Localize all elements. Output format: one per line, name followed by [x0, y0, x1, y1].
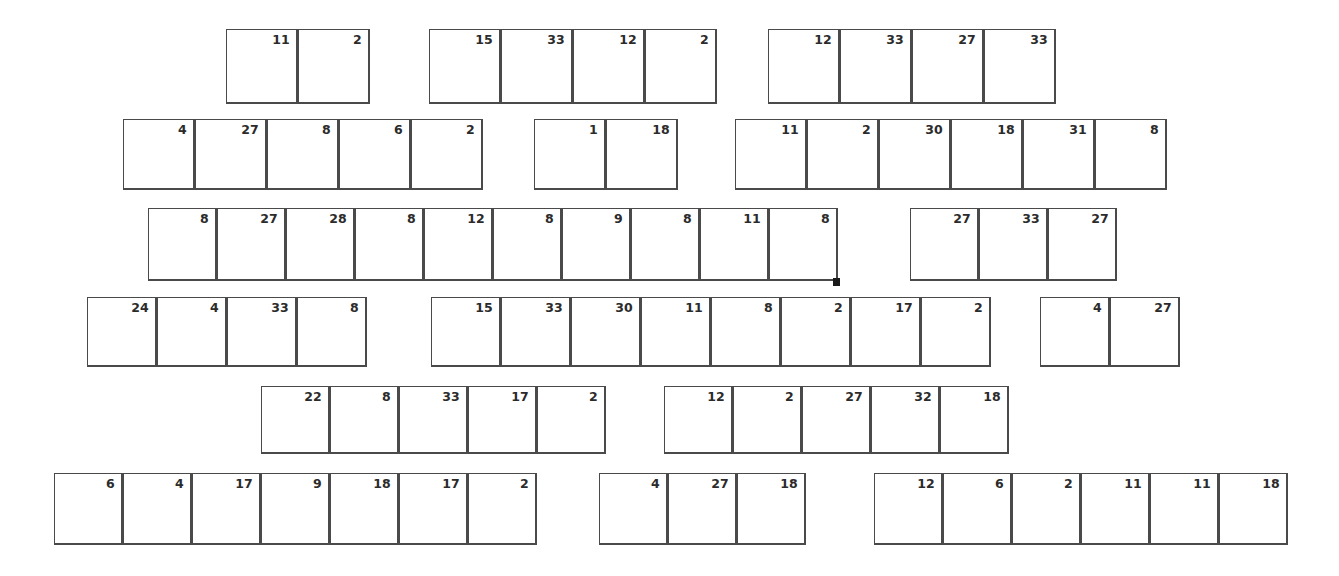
cell-value: 18 [1262, 477, 1280, 490]
grid-cell[interactable]: 11 [226, 29, 298, 104]
cell-value: 8 [545, 212, 554, 225]
grid-cell[interactable]: 8 [711, 297, 781, 367]
grid-cell[interactable]: 6 [54, 473, 123, 545]
cell-value: 27 [260, 212, 278, 225]
cell-group: 1123018318 [735, 119, 1167, 190]
grid-cell[interactable]: 27 [910, 208, 979, 281]
grid-cell[interactable]: 4 [1040, 297, 1110, 367]
grid-cell[interactable]: 12 [664, 386, 733, 454]
grid-cell[interactable]: 33 [227, 297, 297, 367]
grid-cell[interactable]: 31 [1023, 119, 1095, 190]
cell-value: 6 [995, 477, 1004, 490]
grid-cell[interactable]: 8 [769, 208, 838, 281]
cell-value: 2 [520, 477, 529, 490]
grid-cell[interactable]: 8 [330, 386, 399, 454]
cell-group: 1533301182172 [431, 297, 991, 367]
grid-cell[interactable]: 12 [768, 29, 840, 104]
grid-cell[interactable]: 22 [261, 386, 330, 454]
grid-cell[interactable]: 18 [1219, 473, 1288, 545]
grid-cell[interactable]: 6 [943, 473, 1012, 545]
grid-cell[interactable]: 4 [599, 473, 668, 545]
grid-cell[interactable]: 2 [781, 297, 851, 367]
grid-cell[interactable]: 33 [840, 29, 912, 104]
grid-cell[interactable]: 2 [468, 473, 537, 545]
cell-value: 8 [821, 212, 830, 225]
grid-cell[interactable]: 15 [429, 29, 501, 104]
cell-value: 9 [313, 477, 322, 490]
grid-cell[interactable]: 9 [562, 208, 631, 281]
grid-cell[interactable]: 18 [940, 386, 1009, 454]
grid-cell[interactable]: 18 [737, 473, 806, 545]
grid-cell[interactable]: 18 [606, 119, 678, 190]
grid-cell[interactable]: 24 [87, 297, 157, 367]
cell-value: 2 [466, 123, 475, 136]
grid-cell[interactable]: 2 [733, 386, 802, 454]
grid-cell[interactable]: 2 [921, 297, 991, 367]
grid-cell[interactable]: 9 [261, 473, 330, 545]
grid-cell[interactable]: 8 [1095, 119, 1167, 190]
grid-cell[interactable]: 33 [501, 297, 571, 367]
cell-value: 2 [834, 301, 843, 314]
grid-cell[interactable]: 27 [195, 119, 267, 190]
grid-cell[interactable]: 15 [431, 297, 501, 367]
grid-cell[interactable]: 2 [645, 29, 717, 104]
grid-cell[interactable]: 27 [912, 29, 984, 104]
grid-cell[interactable]: 28 [286, 208, 355, 281]
grid-cell[interactable]: 11 [1081, 473, 1150, 545]
grid-cell[interactable]: 8 [148, 208, 217, 281]
grid-cell[interactable]: 8 [355, 208, 424, 281]
cell-value: 8 [1150, 123, 1159, 136]
grid-cell[interactable]: 2 [807, 119, 879, 190]
grid-cell[interactable]: 33 [399, 386, 468, 454]
cell-group: 6417918172 [54, 473, 537, 545]
grid-cell[interactable]: 17 [399, 473, 468, 545]
grid-cell[interactable]: 8 [297, 297, 367, 367]
grid-cell[interactable]: 6 [339, 119, 411, 190]
grid-cell[interactable]: 33 [501, 29, 573, 104]
grid-cell[interactable]: 11 [1150, 473, 1219, 545]
grid-cell[interactable]: 27 [668, 473, 737, 545]
grid-cell[interactable]: 4 [123, 119, 195, 190]
grid-cell[interactable]: 27 [217, 208, 286, 281]
grid-cell[interactable]: 27 [1048, 208, 1117, 281]
grid-cell[interactable]: 4 [157, 297, 227, 367]
cell-value: 33 [886, 33, 904, 46]
grid-cell[interactable]: 12 [573, 29, 645, 104]
cell-group: 1533122 [429, 29, 717, 104]
cell-value: 11 [1193, 477, 1211, 490]
grid-cell[interactable]: 30 [879, 119, 951, 190]
grid-cell[interactable]: 30 [571, 297, 641, 367]
cell-value: 17 [235, 477, 253, 490]
cell-value: 18 [652, 123, 670, 136]
grid-cell[interactable]: 8 [267, 119, 339, 190]
grid-cell[interactable]: 32 [871, 386, 940, 454]
grid-cell[interactable]: 18 [330, 473, 399, 545]
grid-cell[interactable]: 17 [468, 386, 537, 454]
grid-cell[interactable]: 12 [874, 473, 943, 545]
cell-value: 4 [178, 123, 187, 136]
cell-value: 8 [407, 212, 416, 225]
grid-cell[interactable]: 11 [700, 208, 769, 281]
cell-group: 42718 [599, 473, 806, 545]
grid-cell[interactable]: 27 [802, 386, 871, 454]
grid-cell[interactable]: 2 [1012, 473, 1081, 545]
grid-cell[interactable]: 2 [537, 386, 606, 454]
grid-cell[interactable]: 17 [192, 473, 261, 545]
grid-cell[interactable]: 2 [298, 29, 370, 104]
grid-cell[interactable]: 12 [424, 208, 493, 281]
grid-cell[interactable]: 8 [631, 208, 700, 281]
grid-cell[interactable]: 8 [493, 208, 562, 281]
grid-cell[interactable]: 11 [641, 297, 711, 367]
cell-value: 15 [475, 301, 493, 314]
grid-cell[interactable]: 18 [951, 119, 1023, 190]
grid-cell[interactable]: 4 [123, 473, 192, 545]
grid-cell[interactable]: 33 [984, 29, 1056, 104]
grid-cell[interactable]: 33 [979, 208, 1048, 281]
grid-cell[interactable]: 2 [411, 119, 483, 190]
grid-cell[interactable]: 17 [851, 297, 921, 367]
cell-value: 11 [781, 123, 799, 136]
grid-cell[interactable]: 27 [1110, 297, 1180, 367]
grid-cell[interactable]: 1 [534, 119, 606, 190]
grid-cell[interactable]: 11 [735, 119, 807, 190]
cell-value: 27 [1154, 301, 1172, 314]
